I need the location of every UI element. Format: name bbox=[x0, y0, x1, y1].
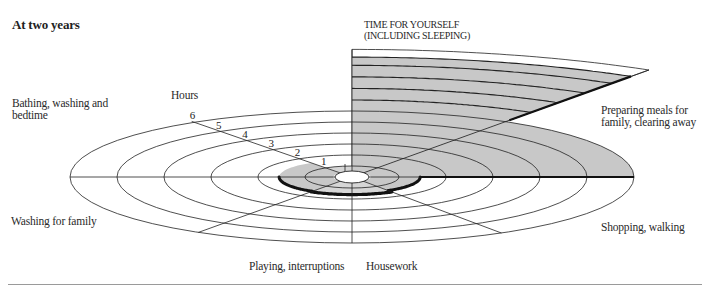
hour-tick-label: 6 bbox=[190, 109, 196, 121]
label-bathing: Bathing, washing and bedtime bbox=[12, 97, 108, 121]
label-shopping-walking: Shopping, walking bbox=[601, 221, 685, 233]
axis-label-hours: Hours bbox=[171, 89, 198, 101]
radial-line bbox=[352, 177, 501, 233]
radial-line bbox=[198, 177, 352, 232]
label-washing-for-family: Washing for family bbox=[11, 215, 97, 227]
bottom-rule bbox=[8, 284, 702, 285]
center-hub bbox=[335, 171, 369, 183]
hour-tick-label: 4 bbox=[242, 128, 248, 140]
radial-chart: 123456 bbox=[0, 0, 704, 293]
chart-graphics: 123456 bbox=[70, 49, 649, 243]
label-housework: Housework bbox=[366, 260, 417, 272]
hour-tick-label: 5 bbox=[216, 119, 222, 131]
hour-tick-label: 2 bbox=[295, 146, 301, 158]
label-preparing-meals: Preparing meals for family, clearing awa… bbox=[601, 104, 696, 128]
hour-tick-label: 1 bbox=[321, 155, 327, 167]
label-playing: Playing, interruptions bbox=[249, 260, 344, 272]
label-time-for-yourself: TIME FOR YOURSELF (INCLUDING SLEEPING) bbox=[364, 19, 470, 41]
hour-tick-label: 3 bbox=[269, 137, 275, 149]
